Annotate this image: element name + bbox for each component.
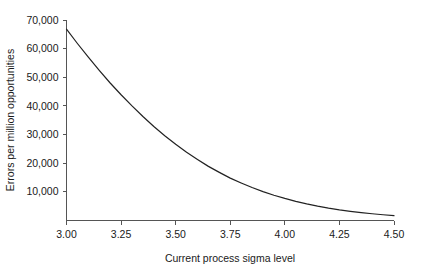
chart-container: 10,00020,00030,00040,00050,00060,00070,0… bbox=[0, 0, 421, 273]
y-tick-label: 50,000 bbox=[26, 71, 58, 83]
y-axis-title: Errors per million opportunities bbox=[4, 49, 16, 191]
y-axis-tick-labels: 10,00020,00030,00040,00050,00060,00070,0… bbox=[26, 14, 58, 198]
y-tick-label: 60,000 bbox=[26, 42, 58, 54]
y-tick-label: 30,000 bbox=[26, 128, 58, 140]
x-axis-tick-labels: 3.003.253.503.754.004.254.50 bbox=[56, 228, 404, 240]
y-axis-ticks bbox=[63, 20, 67, 192]
x-tick-label: 3.50 bbox=[165, 228, 186, 240]
y-tick-label: 20,000 bbox=[26, 157, 58, 169]
x-axis-ticks bbox=[67, 221, 395, 225]
x-tick-label: 4.25 bbox=[329, 228, 350, 240]
sigma-dpmo-line-chart: 10,00020,00030,00040,00050,00060,00070,0… bbox=[0, 0, 421, 273]
x-axis-title: Current process sigma level bbox=[165, 252, 295, 264]
x-tick-label: 4.50 bbox=[384, 228, 405, 240]
x-tick-label: 3.00 bbox=[56, 228, 77, 240]
axis-lines bbox=[66, 20, 394, 221]
x-tick-label: 3.75 bbox=[220, 228, 241, 240]
dpmo-curve bbox=[67, 29, 395, 215]
x-tick-label: 4.00 bbox=[275, 228, 296, 240]
y-tick-label: 70,000 bbox=[26, 14, 58, 26]
y-tick-label: 10,000 bbox=[26, 185, 58, 197]
x-tick-label: 3.25 bbox=[111, 228, 132, 240]
y-tick-label: 40,000 bbox=[26, 100, 58, 112]
